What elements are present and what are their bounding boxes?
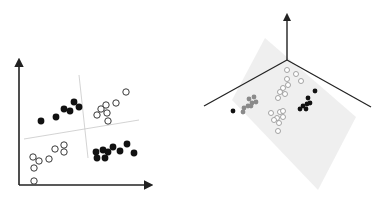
point-open [30, 154, 36, 160]
point-filled [124, 141, 131, 148]
point-open [299, 79, 304, 84]
diagram-canvas [0, 0, 384, 203]
point-open [52, 146, 58, 152]
point-open [285, 68, 290, 73]
point-open [105, 118, 111, 124]
point-gray [242, 106, 247, 111]
panel-2d [19, 60, 151, 185]
point-filled [131, 150, 138, 157]
point-open [294, 72, 299, 77]
panel-3d [204, 15, 371, 190]
point-gray [254, 100, 259, 105]
point-filled [38, 118, 45, 125]
point-open [286, 83, 291, 88]
point-open [61, 142, 67, 148]
point-filled [306, 96, 311, 101]
point-open [103, 102, 109, 108]
point-open [281, 109, 286, 114]
point-open [272, 118, 277, 123]
point-filled [304, 107, 309, 112]
point-open [278, 90, 283, 95]
point-filled [298, 107, 303, 112]
point-gray [249, 104, 254, 109]
point-open [283, 92, 288, 97]
point-filled [93, 149, 100, 156]
point-filled [71, 99, 78, 106]
point-filled [102, 155, 109, 162]
point-open [285, 77, 290, 82]
point-filled [61, 106, 68, 113]
point-open [31, 178, 37, 184]
point-filled [67, 108, 74, 115]
points-2d [30, 89, 138, 184]
separating-plane [232, 38, 356, 190]
point-open [269, 111, 274, 116]
point-open [276, 96, 281, 101]
point-open [94, 112, 100, 118]
point-gray [252, 95, 257, 100]
point-filled [94, 155, 101, 162]
point-open [46, 156, 52, 162]
point-filled [117, 148, 124, 155]
point-open [31, 165, 37, 171]
point-filled [313, 89, 318, 94]
point-open [61, 149, 67, 155]
point-filled [53, 114, 60, 121]
point-open [36, 158, 42, 164]
point-open [281, 115, 286, 120]
point-filled [110, 144, 117, 151]
point-filled [105, 149, 112, 156]
point-open [277, 121, 282, 126]
separator-line-vertical [79, 75, 88, 158]
point-gray [247, 97, 252, 102]
point-open [113, 100, 119, 106]
point-gray [241, 110, 246, 115]
point-filled [76, 104, 83, 111]
point-filled [231, 109, 236, 114]
point-open [104, 110, 110, 116]
point-open [276, 129, 281, 134]
point-filled [308, 101, 313, 106]
point-open [123, 89, 129, 95]
